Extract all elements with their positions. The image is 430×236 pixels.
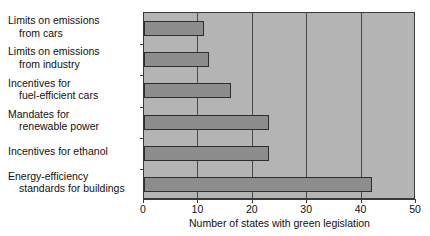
- y-axis-tick: [140, 75, 144, 76]
- category-label: Limits on emissionsfrom industry: [8, 45, 134, 70]
- bar: [144, 21, 204, 36]
- category-label-line: standards for buildings: [8, 182, 134, 194]
- gridline: [361, 13, 362, 198]
- category-label-line: from industry: [8, 58, 134, 70]
- gridline: [252, 13, 253, 198]
- category-label-line: Incentives for ethanol: [8, 145, 134, 157]
- bar: [144, 83, 231, 98]
- category-label: Incentives for ethanol: [8, 145, 134, 157]
- category-label-line: renewable power: [8, 120, 134, 132]
- plot-area: [143, 12, 415, 199]
- category-label-line: from cars: [8, 27, 134, 39]
- y-axis-tick: [140, 169, 144, 170]
- y-axis-tick: [140, 44, 144, 45]
- category-label: Energy-efficiencystandards for buildings: [8, 170, 134, 195]
- bar: [144, 146, 269, 161]
- category-label-line: Incentives for: [8, 77, 134, 89]
- bar-chart: Limits on emissionsfrom carsLimits on em…: [0, 0, 430, 236]
- category-axis-labels: Limits on emissionsfrom carsLimits on em…: [0, 12, 136, 199]
- bar: [144, 52, 209, 67]
- gridline: [197, 13, 198, 198]
- category-label-line: fuel-efficient cars: [8, 89, 134, 101]
- x-axis-tick-label: 40: [355, 203, 367, 215]
- gridline: [306, 13, 307, 198]
- category-label-line: Limits on emissions: [8, 14, 134, 26]
- x-axis-title: Number of states with green legislation: [143, 217, 416, 229]
- category-label: Limits on emissionsfrom cars: [8, 14, 134, 39]
- x-axis-tick-label: 0: [140, 203, 146, 215]
- y-axis-tick: [140, 138, 144, 139]
- bar: [144, 115, 269, 130]
- x-axis-tick-label: 30: [300, 203, 312, 215]
- bar: [144, 177, 372, 192]
- x-axis-tick-label: 10: [192, 203, 204, 215]
- y-axis-tick: [140, 107, 144, 108]
- x-axis-line: [143, 199, 416, 200]
- x-axis-tick-label: 50: [409, 203, 421, 215]
- category-label-line: Mandates for: [8, 108, 134, 120]
- category-label: Mandates forrenewable power: [8, 108, 134, 133]
- category-label-line: Limits on emissions: [8, 45, 134, 57]
- category-label: Incentives forfuel-efficient cars: [8, 77, 134, 102]
- category-label-line: Energy-efficiency: [8, 170, 134, 182]
- x-axis-tick-label: 20: [246, 203, 258, 215]
